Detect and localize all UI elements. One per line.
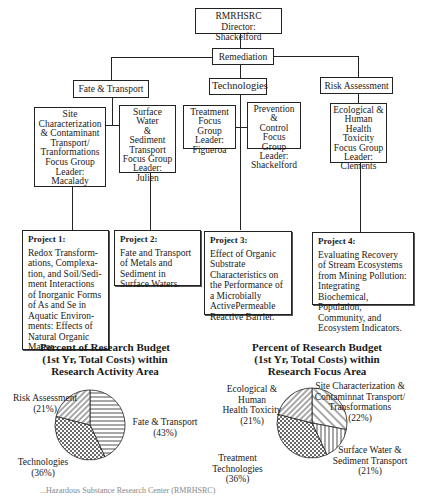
label-eco-health: Ecological & HumanHealth Toxicity(21%) [212,384,292,426]
figure-caption: ...Hazardous Substance Research Center (… [40,486,432,495]
label-surface-water: Surface Water &Sediment Transport(21%) [320,445,420,477]
label-risk-assessment: Risk Assessment(21%) [10,393,80,414]
label-fate-transport: Fate & Transport(43%) [125,417,205,438]
label-treatment-technologies: TreatmentTechnologies(36%) [200,453,275,485]
label-technologies: Technologies(36%) [8,457,78,478]
label-site-characterization: Site Characterization &Contaminnat Trans… [300,381,420,423]
